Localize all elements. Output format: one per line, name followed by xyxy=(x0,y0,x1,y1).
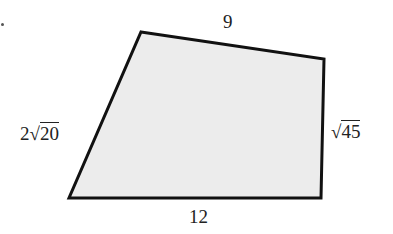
left-radicand: 20 xyxy=(40,122,59,143)
left-side-label: 2√20 xyxy=(20,122,59,143)
bottom-side-value: 12 xyxy=(189,206,208,227)
right-side-label: √45 xyxy=(331,120,360,141)
left-coefficient: 2 xyxy=(20,123,30,144)
sqrt-symbol: √ xyxy=(30,124,40,143)
quadrilateral-figure xyxy=(0,0,393,234)
stray-mark xyxy=(1,23,4,26)
top-side-value: 9 xyxy=(223,11,233,32)
top-side-label: 9 xyxy=(223,12,233,31)
bottom-side-label: 12 xyxy=(189,207,208,226)
sqrt-symbol: √ xyxy=(331,122,341,141)
right-radicand: 45 xyxy=(341,120,360,141)
quadrilateral-shape xyxy=(69,32,324,198)
